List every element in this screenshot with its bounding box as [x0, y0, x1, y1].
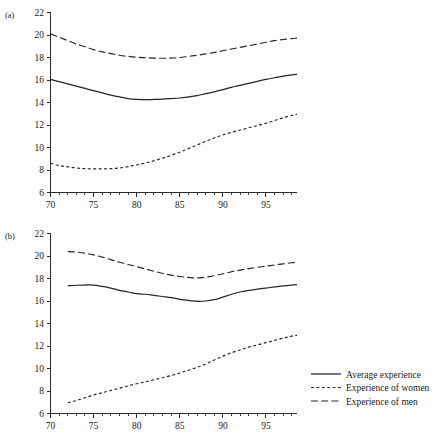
x-tick-label: 80 — [132, 200, 142, 210]
y-tick-label: 16 — [35, 296, 45, 306]
panel-label: (b) — [5, 231, 15, 241]
x-tick-label: 75 — [89, 421, 99, 431]
y-tick-label: 14 — [35, 319, 45, 329]
chart-panel-a: (a)6810121416182022707580859095 — [5, 8, 297, 210]
y-tick-label: 18 — [35, 274, 45, 284]
y-tick-label: 8 — [39, 165, 44, 175]
legend-label: Experience of men — [346, 397, 418, 407]
y-tick-label: 12 — [35, 120, 45, 130]
x-tick-label: 75 — [89, 200, 99, 210]
chart-panel-b: (b)6810121416182022707580859095 — [5, 229, 297, 431]
series-line-experience-of-men — [51, 34, 298, 58]
y-tick-label: 6 — [39, 188, 44, 198]
legend: Average experienceExperience of womenExp… — [311, 370, 430, 407]
x-tick-label: 95 — [261, 421, 271, 431]
legend-label: Experience of women — [346, 383, 430, 393]
x-tick-label: 70 — [46, 421, 56, 431]
y-tick-label: 8 — [39, 386, 44, 396]
y-tick-label: 22 — [35, 229, 45, 239]
series-line-average-experience — [51, 74, 298, 99]
y-tick-label: 10 — [35, 364, 45, 374]
y-tick-label: 14 — [35, 98, 45, 108]
panel-label: (a) — [5, 10, 15, 20]
series-line-experience-of-women — [68, 335, 297, 403]
x-tick-label: 80 — [132, 421, 142, 431]
y-tick-label: 16 — [35, 75, 45, 85]
y-tick-label: 20 — [35, 30, 45, 40]
x-tick-label: 95 — [261, 200, 271, 210]
legend-label: Average experience — [346, 370, 421, 380]
figure-container: (a)6810121416182022707580859095(b)681012… — [0, 0, 443, 446]
y-tick-label: 20 — [35, 251, 45, 261]
x-tick-label: 90 — [218, 421, 228, 431]
y-tick-label: 22 — [35, 8, 45, 18]
y-tick-label: 12 — [35, 341, 45, 351]
x-tick-label: 85 — [175, 200, 185, 210]
y-tick-label: 10 — [35, 143, 45, 153]
x-tick-label: 70 — [46, 200, 56, 210]
x-tick-label: 90 — [218, 200, 228, 210]
y-tick-label: 18 — [35, 53, 45, 63]
series-line-average-experience — [68, 285, 297, 302]
series-line-experience-of-men — [68, 252, 297, 278]
series-line-experience-of-women — [51, 114, 298, 169]
x-tick-label: 85 — [175, 421, 185, 431]
y-tick-label: 6 — [39, 409, 44, 419]
figure-svg: (a)6810121416182022707580859095(b)681012… — [0, 0, 443, 446]
